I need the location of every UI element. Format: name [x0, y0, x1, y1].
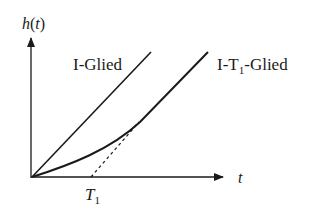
asymptote-dashed-line: [91, 122, 139, 177]
i-glied-label: I-Glied: [73, 55, 123, 74]
diagram: h(t) t I-Glied I-T1-Glied T1: [0, 0, 310, 217]
t1-marker-label: T1: [85, 185, 100, 206]
i-t1-glied-label: I-T1-Glied: [217, 55, 288, 76]
x-axis-label: t: [238, 169, 243, 186]
y-axis-label: h(t): [22, 15, 45, 33]
